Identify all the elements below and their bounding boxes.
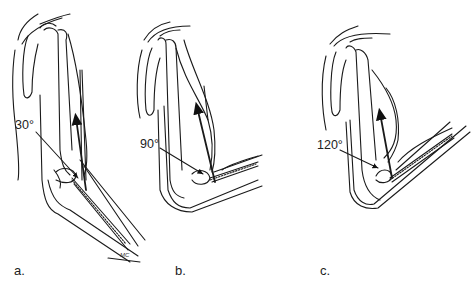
artist-signature: MC xyxy=(120,252,129,258)
angle-label-a: 30° xyxy=(15,118,34,132)
angle-label-b: 90° xyxy=(140,137,159,151)
elbow-flexion-diagram xyxy=(0,0,475,287)
panel-c-drawing xyxy=(322,26,470,208)
panel-label-a: a. xyxy=(14,263,25,278)
panel-b-drawing xyxy=(137,22,262,212)
panel-label-b: b. xyxy=(175,263,186,278)
angle-label-c: 120° xyxy=(317,138,343,152)
panel-label-c: c. xyxy=(320,263,330,278)
panel-a-drawing xyxy=(13,14,145,262)
